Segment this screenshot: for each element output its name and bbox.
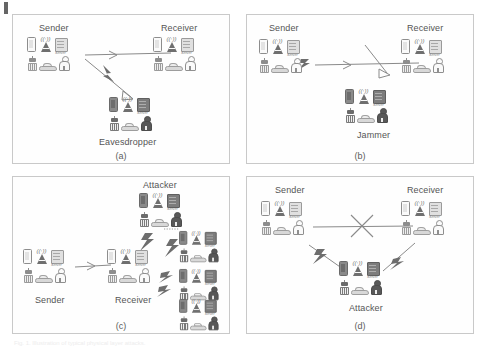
server-icon: Server — [51, 250, 64, 264]
cell-tower-icon: ((⋅)) — [189, 269, 203, 283]
robot-icon — [262, 222, 271, 235]
person-icon — [55, 268, 66, 283]
cluster-sender-c: ((⋅)) Server — [23, 249, 81, 287]
cell-tower-icon: ((⋅)) — [350, 261, 365, 276]
cell-tower-icon: ((⋅)) — [412, 39, 427, 54]
car-icon — [271, 65, 289, 73]
page-edge-mark — [4, 2, 8, 14]
server-icon: Server — [167, 194, 180, 208]
cluster-receiver-a: ((⋅)) Server — [153, 37, 211, 75]
panel-a-caption: (a) — [13, 151, 229, 161]
cluster-sender-a: ((⋅)) Server — [27, 37, 85, 75]
label-eavesdropper-a: Eavesdropper — [99, 137, 156, 147]
server-icon: Server — [205, 300, 217, 313]
panel-b-jamming: Sender ((⋅)) Server Receiver ((⋅)) Serve… — [246, 14, 474, 164]
label-receiver-a: Receiver — [161, 23, 197, 33]
label-jammer-b: Jammer — [357, 130, 390, 140]
robot-icon — [108, 270, 117, 283]
robot-icon — [346, 110, 355, 123]
panel-b-caption: (b) — [247, 151, 473, 161]
car-icon — [121, 123, 139, 131]
cell-tower-icon: ((⋅)) — [356, 89, 371, 104]
cluster-eavesdropper-a: ((⋅)) Server — [109, 97, 167, 135]
cluster-attacker-c: ((⋅)) Server — [139, 193, 197, 231]
phone-icon — [153, 37, 162, 52]
person-icon — [208, 248, 218, 262]
phone-icon — [345, 89, 354, 104]
car-icon — [357, 115, 375, 123]
person-icon — [293, 220, 304, 235]
label-sender-d: Sender — [275, 185, 305, 195]
phone-icon — [139, 193, 148, 208]
cluster-receiver-d: ((⋅)) Server — [401, 201, 459, 239]
phone-icon — [261, 201, 270, 216]
cell-tower-icon: ((⋅)) — [272, 201, 287, 216]
server-icon: Server — [137, 98, 150, 112]
label-attacker-c: Attacker — [143, 180, 177, 190]
robot-icon — [402, 60, 411, 73]
panel-c-flooding: Attacker ((⋅)) Server ((⋅)) Server — [12, 176, 230, 334]
car-icon — [413, 227, 431, 235]
cell-tower-icon: ((⋅)) — [164, 37, 179, 52]
phone-icon — [27, 37, 36, 52]
label-sender-c: Sender — [35, 295, 65, 305]
server-icon: Server — [181, 38, 194, 52]
panel-d-mitm: Sender ((⋅)) Server Receiver ((⋅)) Serve… — [246, 176, 474, 334]
cluster-sender-d: ((⋅)) Server — [261, 201, 319, 239]
robot-icon — [28, 58, 37, 71]
robot-icon — [110, 118, 119, 131]
cell-tower-icon: ((⋅)) — [412, 201, 427, 216]
person-icon — [185, 56, 196, 71]
person-icon — [139, 268, 150, 283]
person-icon — [433, 220, 444, 235]
robot-icon — [340, 282, 349, 295]
person-icon — [291, 58, 302, 73]
server-icon: Server — [205, 270, 217, 283]
cluster-attacker-d: ((⋅)) Server — [339, 261, 397, 299]
label-receiver-d: Receiver — [407, 185, 443, 195]
cluster-sender-b: ((⋅)) Server — [259, 39, 317, 77]
server-icon: Server — [55, 38, 68, 52]
person-icon — [171, 212, 182, 227]
cell-tower-icon: ((⋅)) — [189, 299, 203, 313]
person-icon — [371, 280, 382, 295]
phone-icon — [401, 201, 410, 216]
cell-tower-icon: ((⋅)) — [38, 37, 53, 52]
robot-icon — [24, 270, 33, 283]
phone-icon — [179, 231, 187, 245]
robot-icon — [260, 60, 269, 73]
server-icon: Server — [287, 40, 300, 54]
phone-icon — [109, 97, 118, 112]
car-icon — [35, 275, 53, 283]
robot-icon — [402, 222, 411, 235]
label-sender-b: Sender — [269, 23, 299, 33]
cluster-jammer-b: ((⋅)) Server — [345, 89, 403, 127]
server-icon: Server — [289, 202, 302, 216]
cell-tower-icon: ((⋅)) — [270, 39, 285, 54]
panel-c-caption: (c) — [13, 321, 229, 331]
cell-tower-icon: ((⋅)) — [118, 249, 133, 264]
person-icon — [433, 58, 444, 73]
server-icon: Server — [367, 262, 380, 276]
phone-icon — [259, 39, 268, 54]
phone-icon — [107, 249, 116, 264]
cluster-flood-1-c: ((⋅)) Server — [179, 231, 230, 266]
label-receiver-c: Receiver — [115, 295, 151, 305]
car-icon — [119, 275, 137, 283]
person-icon — [59, 56, 70, 71]
car-icon — [351, 287, 369, 295]
panel-d-caption: (d) — [247, 321, 473, 331]
car-icon — [190, 255, 207, 262]
car-icon — [39, 63, 57, 71]
server-icon: Server — [373, 90, 386, 104]
phone-icon — [23, 249, 32, 264]
server-icon: Server — [429, 202, 442, 216]
car-icon — [273, 227, 291, 235]
figure-caption: Fig. 1. Illustration of typical physical… — [14, 340, 145, 346]
robot-icon — [140, 214, 149, 227]
phone-icon — [179, 269, 187, 283]
label-sender-a: Sender — [39, 23, 69, 33]
car-icon — [413, 65, 431, 73]
phone-icon — [339, 261, 348, 276]
phone-icon — [401, 39, 410, 54]
